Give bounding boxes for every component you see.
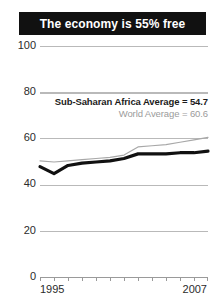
x-axis-tick-2002 [138, 278, 139, 281]
x-axis-tick-1998 [82, 278, 83, 281]
y-tick-label-0: 0 [4, 271, 36, 282]
x-axis-tick-2005 [180, 278, 181, 281]
y-tick-label-60: 60 [4, 132, 36, 143]
legend-entry-sub-saharan-africa-label: Sub-Saharan Africa Average = 54.7 [55, 96, 208, 107]
y-tick-label-20: 20 [4, 225, 36, 236]
x-tick-label-end: 2007 [183, 283, 207, 295]
x-axis-tick-2000 [110, 278, 111, 281]
legend-divider [40, 93, 208, 94]
x-axis-tick-1995 [40, 278, 41, 281]
legend-entry-sub-saharan-africa: Sub-Saharan Africa Average = 54.7 [40, 96, 208, 108]
x-axis-tick-2007 [207, 278, 208, 281]
x-axis-tick-2006 [194, 278, 195, 281]
y-tick-label-100: 100 [4, 40, 36, 51]
chart-legend: Sub-Saharan Africa Average = 54.7 World … [40, 93, 208, 120]
page-title: The economy is 55% free [40, 17, 186, 31]
legend-entry-world-label: World Average = 60.6 [119, 108, 208, 119]
x-axis-ticks [40, 278, 208, 282]
economy-freedom-chart-card: The economy is 55% free 100 80 60 40 20 … [0, 0, 213, 300]
x-axis-tick-1999 [96, 278, 97, 281]
chart-title-banner: The economy is 55% free [19, 12, 206, 35]
plot-area [40, 46, 208, 278]
series-lines [40, 46, 208, 278]
x-axis-tick-2001 [124, 278, 125, 281]
y-tick-label-40: 40 [4, 178, 36, 189]
x-axis-tick-1996 [54, 278, 55, 281]
x-tick-label-start: 1995 [40, 283, 64, 295]
x-axis-tick-2004 [166, 278, 167, 281]
x-axis-labels: 1995 2007 [30, 283, 213, 297]
legend-entry-world: World Average = 60.6 [40, 108, 208, 120]
x-axis-tick-1997 [68, 278, 69, 281]
y-axis-labels: 100 80 60 40 20 0 [0, 46, 36, 278]
y-tick-label-80: 80 [4, 86, 36, 97]
x-axis-tick-2003 [152, 278, 153, 281]
